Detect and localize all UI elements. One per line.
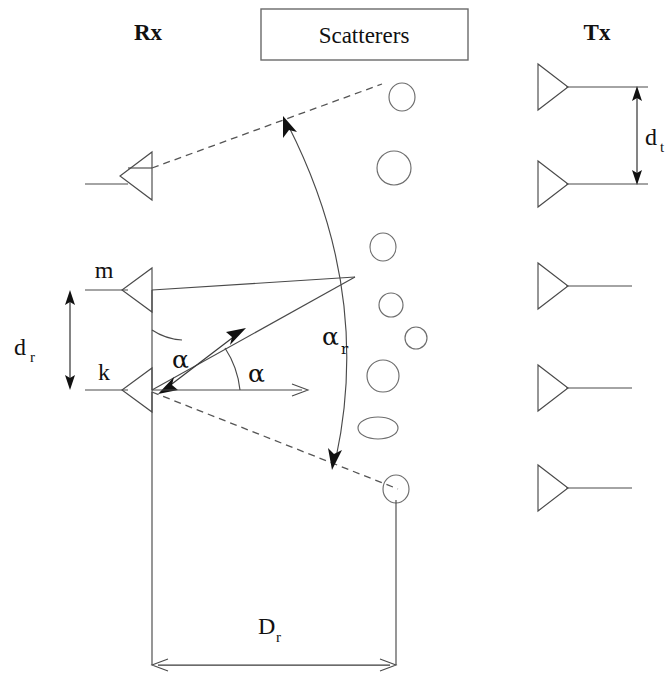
dashed-upper-boundary xyxy=(152,84,382,168)
rx-spacing-dimension: d r xyxy=(14,290,75,390)
angle-arc-horizontal xyxy=(225,348,240,390)
angular-spread-arc: α r xyxy=(283,116,349,470)
reference-axis xyxy=(152,384,308,396)
angular-spread-curve xyxy=(288,125,347,458)
angle-arc-vertical xyxy=(152,330,182,340)
angular-spread-subscript: r xyxy=(341,340,349,358)
antenna-triangle xyxy=(538,263,568,309)
scatterer-ellipse xyxy=(383,475,409,503)
rx-distance-label: D xyxy=(258,613,275,639)
scatterer-ellipse xyxy=(370,233,396,261)
rx-antenna-top xyxy=(85,152,152,200)
scatterer-ellipse xyxy=(358,417,398,439)
antenna-triangle xyxy=(538,465,568,511)
antenna-triangle xyxy=(538,365,568,411)
rx-distance-subscript: r xyxy=(276,629,281,645)
rx-title-label: Rx xyxy=(134,20,163,45)
tx-antenna-2 xyxy=(538,161,648,207)
angular-spread-label: α xyxy=(322,322,339,351)
scatterers-box-label: Scatterers xyxy=(319,23,410,48)
diagram-canvas: Rx Tx Scatterers xyxy=(0,0,672,682)
arrowhead-arc-bottom xyxy=(328,448,342,470)
scatterer-ellipse xyxy=(389,83,415,111)
scatterer-ellipse xyxy=(379,293,403,317)
ray-m-to-scatterer xyxy=(152,277,355,290)
scatterer-ellipse xyxy=(377,151,411,185)
scatterer-ellipse xyxy=(367,360,399,392)
scatterer-cluster xyxy=(358,83,427,503)
tx-antenna-3 xyxy=(538,263,632,309)
rx-spacing-subscript: r xyxy=(30,349,35,365)
antenna-triangle xyxy=(538,64,568,110)
tx-spacing-subscript: t xyxy=(660,139,665,155)
tx-antenna-5 xyxy=(538,465,632,511)
scatterer-ellipse xyxy=(405,327,427,349)
antenna-triangle xyxy=(120,152,152,200)
rx-spacing-label: d xyxy=(14,334,26,360)
tx-spacing-dimension: d t xyxy=(632,86,665,185)
antenna-triangle xyxy=(538,161,568,207)
tx-antenna-1 xyxy=(538,64,648,110)
angle-alpha-left-label: α xyxy=(172,345,189,374)
rx-distance-dimension: D r xyxy=(152,392,396,671)
antenna-k-label: k xyxy=(98,359,110,385)
rx-antenna-k xyxy=(85,368,152,412)
tx-title-label: Tx xyxy=(584,20,611,45)
arrowhead-arc-top xyxy=(283,116,297,138)
tx-spacing-label: d xyxy=(645,124,657,150)
angle-alpha-right-label: α xyxy=(248,359,265,388)
dashed-lower-boundary xyxy=(152,392,398,489)
mimo-scattering-diagram: Rx Tx Scatterers xyxy=(0,0,672,682)
arrowhead-upper-right xyxy=(226,328,246,345)
antenna-m-label: m xyxy=(95,257,114,283)
scatterers-box: Scatterers xyxy=(261,9,468,60)
tx-antenna-4 xyxy=(538,365,632,411)
